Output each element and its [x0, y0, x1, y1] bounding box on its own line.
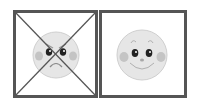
angry-face-panel[interactable]: [13, 10, 98, 98]
happy-face-panel[interactable]: [99, 10, 187, 98]
angry-face-icon: [16, 13, 95, 95]
happy-face-icon: [102, 13, 184, 95]
cross-out-icon: [16, 13, 95, 95]
